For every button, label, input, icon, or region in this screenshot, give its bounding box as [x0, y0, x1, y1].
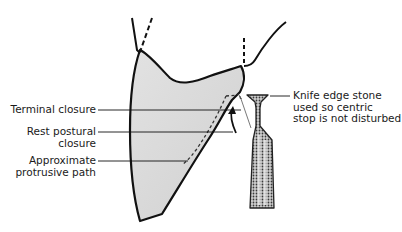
label-knife-edge-stone: Knife edge stone used so centric stop is… — [293, 90, 401, 125]
left-dashed-line — [140, 18, 152, 52]
left-root-line — [132, 18, 140, 53]
label-protrusive-line1: Approximate — [15, 155, 96, 167]
label-stone-line3: stop is not disturbed — [293, 113, 401, 125]
tooth-crown — [130, 50, 244, 221]
label-rest-postural-line2: closure — [27, 138, 96, 150]
label-rest-postural-line1: Rest postural — [27, 126, 96, 138]
label-protrusive-line2: protrusive path — [15, 167, 96, 179]
label-stone-line1: Knife edge stone — [293, 90, 401, 102]
label-protrusive-path: Approximate protrusive path — [15, 155, 96, 178]
knife-edge-stone — [247, 95, 274, 208]
pointer-line — [240, 96, 251, 128]
label-terminal-closure: Terminal closure — [11, 104, 97, 116]
right-gum-line — [244, 22, 286, 66]
label-rest-postural: Rest postural closure — [27, 126, 96, 149]
